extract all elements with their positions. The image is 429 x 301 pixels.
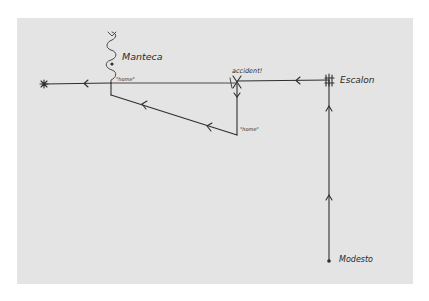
- arrow-up-left-icon: [142, 101, 147, 109]
- accident-cross-icon: [230, 76, 241, 88]
- modesto-dot-icon: [327, 259, 331, 263]
- label-home-detour: "home": [240, 126, 259, 132]
- road-west-segment: [44, 83, 111, 84]
- label-escalon: Escalon: [340, 75, 375, 85]
- manteca-squiggle: [106, 32, 116, 83]
- label-manteca: Manteca: [122, 51, 163, 62]
- label-modesto: Modesto: [339, 255, 373, 264]
- road-accident-escalon-segment: [237, 80, 329, 81]
- label-home-manteca: "home": [116, 76, 135, 82]
- label-accident: accident!: [232, 67, 263, 75]
- road-slant-return: [111, 95, 237, 135]
- star-icon: [40, 80, 48, 88]
- escalon-marker-icon: [325, 74, 334, 86]
- route-diagram: Manteca "home" accident! Escalon "home" …: [0, 0, 429, 301]
- manteca-dot-icon: [110, 62, 113, 65]
